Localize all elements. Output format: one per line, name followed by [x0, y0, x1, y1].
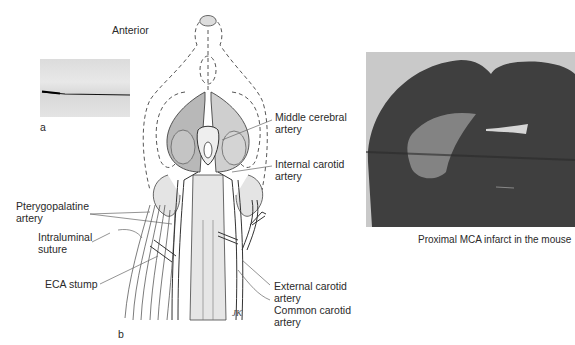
- label-external-carotid-artery: External carotidartery: [274, 280, 347, 304]
- label-middle-cerebral-artery: Middle cerebralartery: [275, 111, 347, 135]
- photo-caption: Proximal MCA infarct in the mouse: [418, 234, 571, 246]
- label-intraluminal-suture: Intraluminalsuture: [38, 231, 92, 255]
- label-common-carotid-artery: Common carotidartery: [274, 304, 351, 328]
- label-internal-carotid-artery: Internal carotidartery: [275, 158, 344, 182]
- label-eca-stump: ECA stump: [45, 278, 98, 290]
- infarct-section-graphic: [366, 52, 575, 227]
- label-pterygopalatine-artery: Pterygopalatineartery: [16, 200, 89, 224]
- brain-section-photo: [366, 52, 575, 227]
- panel-b-label: b: [118, 328, 124, 340]
- illustrator-signature: JK: [232, 308, 243, 318]
